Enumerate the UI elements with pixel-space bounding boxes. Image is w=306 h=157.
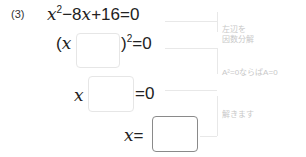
note-zero-product: A²=0ならばA=0 — [222, 68, 278, 78]
connector-line — [217, 96, 218, 136]
rhs: =0 — [132, 34, 151, 53]
answer-box-1[interactable] — [76, 33, 120, 68]
equals: = — [134, 126, 144, 145]
answer-box-2[interactable] — [88, 76, 134, 112]
connector-line — [217, 48, 218, 74]
var-x: x — [62, 33, 72, 53]
note-text: 因数分解 — [222, 35, 254, 45]
step-2-right: =0 — [135, 84, 154, 104]
connector-line — [165, 21, 217, 22]
term: −8 — [62, 5, 81, 24]
step-3-left: x= — [124, 125, 144, 146]
problem-number: (3) — [11, 8, 24, 20]
note-text: 左辺を — [222, 25, 254, 35]
note-factor: 左辺を 因数分解 — [222, 25, 254, 45]
step-2-left: x — [74, 85, 84, 105]
var-x: x — [74, 85, 84, 105]
connector-line — [165, 48, 217, 49]
connector-line — [217, 12, 218, 32]
answer-box-final[interactable] — [152, 116, 198, 152]
term: +16=0 — [91, 5, 139, 24]
var-x: x — [124, 125, 134, 145]
var-x: x — [47, 4, 57, 24]
step-1-right: )2=0 — [121, 33, 152, 54]
var-x: x — [82, 4, 92, 24]
step-1-left: (x — [56, 33, 71, 54]
note-solve: 解きます — [222, 110, 254, 120]
connector-line — [165, 90, 217, 91]
problem-equation: x2−8x+16=0 — [47, 4, 139, 25]
connector-line — [200, 136, 217, 137]
